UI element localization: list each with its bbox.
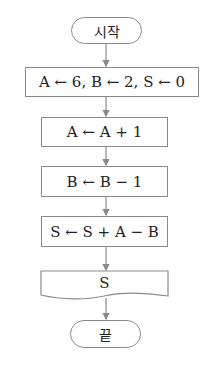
end-label: 끝 xyxy=(99,324,112,344)
increment-a-box: A ← A + 1 xyxy=(41,117,168,147)
decrement-b-label: B ← B − 1 xyxy=(67,173,143,191)
update-s-box: S ← S + A − B xyxy=(41,216,168,247)
output-label: S xyxy=(99,274,109,292)
update-s-label: S ← S + A − B xyxy=(50,223,159,241)
init-process-box: A ← 6, B ← 2, S ← 0 xyxy=(25,67,199,97)
increment-a-label: A ← A + 1 xyxy=(67,123,142,141)
start-label: 시작 xyxy=(94,21,120,41)
end-terminal: 끝 xyxy=(70,320,141,348)
init-label: A ← 6, B ← 2, S ← 0 xyxy=(39,73,185,91)
start-terminal: 시작 xyxy=(71,17,142,44)
output-document: S xyxy=(41,271,168,296)
decrement-b-box: B ← B − 1 xyxy=(41,166,168,197)
